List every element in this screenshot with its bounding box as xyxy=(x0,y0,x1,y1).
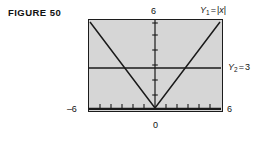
y-axis xyxy=(152,20,158,110)
legend-label-y2: Y2=3 xyxy=(228,62,250,73)
graph-plot-area xyxy=(89,20,221,110)
figure-label: FIGURE 50 xyxy=(8,7,61,18)
graph-screen xyxy=(88,19,223,112)
legend-y2-value: 3 xyxy=(245,62,250,72)
legend-y1-abs-close: | xyxy=(224,5,226,15)
legend-y2-subscript: 2 xyxy=(234,66,238,73)
legend-y2-equals: = xyxy=(238,62,245,72)
legend-y1-equals: = xyxy=(210,5,217,15)
x-axis-min-label: –6 xyxy=(67,104,77,114)
x-axis-max-label: 6 xyxy=(227,104,232,114)
figure-container: FIGURE 50 xyxy=(0,0,274,142)
origin-label: 0 xyxy=(153,120,158,130)
y-axis-max-label: 6 xyxy=(151,6,156,16)
legend-y1-subscript: 1 xyxy=(206,9,210,16)
legend-label-y1: Y1=|x| xyxy=(200,5,226,16)
